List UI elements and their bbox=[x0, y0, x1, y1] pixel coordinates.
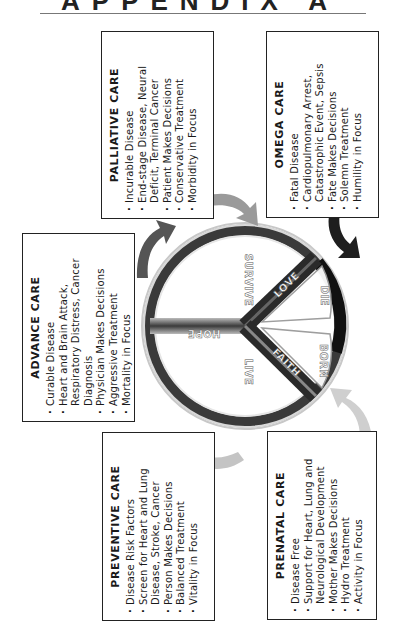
palliative-care-title: PALLIATIVE CARE bbox=[108, 38, 121, 212]
list-item: End-stage Disease, Neural Deficit, Termi… bbox=[137, 38, 162, 212]
list-item: Incurable Disease bbox=[124, 38, 137, 212]
advance-care-title: ADVANCE CARE bbox=[29, 240, 42, 415]
preventive-care-box: PREVENTIVE CARE Disease Risk Factors Scr… bbox=[102, 432, 215, 621]
list-item: Aggressive Treatment bbox=[108, 240, 121, 415]
label-survive: SURVIVE bbox=[243, 254, 254, 307]
list-item: Disease Risk Factors bbox=[125, 439, 138, 614]
list-item: Fatal Disease bbox=[289, 38, 302, 211]
advance-care-box: ADVANCE CARE Curable Disease Heart and B… bbox=[22, 233, 135, 422]
list-item: Curable Disease bbox=[45, 240, 58, 415]
label-die: DIE bbox=[319, 286, 330, 306]
list-item: Support for Heart, Lung and Neurological… bbox=[303, 438, 328, 613]
list-item: Mother Makes Decisions bbox=[328, 438, 341, 613]
list-item: Fate Makes Decisions bbox=[327, 38, 340, 211]
list-item: Screen for Heart and Lung Disease, Strok… bbox=[138, 439, 163, 614]
list-item: Conservative Treatment bbox=[174, 38, 187, 212]
peace-symbol: HOPE SURVIVE LIVE LOVE FAITH DIE BORN bbox=[142, 223, 348, 429]
list-item: Balanced Treatment bbox=[175, 439, 188, 614]
list-item: Solemn Treatment bbox=[339, 38, 352, 211]
advance-care-list: Curable Disease Heart and Brain Attack, … bbox=[45, 240, 133, 415]
palliative-care-box: PALLIATIVE CARE Incurable Disease End-st… bbox=[101, 31, 214, 219]
preventive-care-title: PREVENTIVE CARE bbox=[109, 439, 122, 614]
list-item: Disease Free bbox=[290, 438, 303, 613]
list-item: Patient Makes Decisions bbox=[162, 38, 175, 212]
preventive-care-list: Disease Risk Factors Screen for Heart an… bbox=[125, 439, 201, 614]
omega-care-list: Fatal Disease Cardiopulmonary Arrest, Ca… bbox=[289, 38, 365, 211]
list-item: Activity in Focus bbox=[353, 438, 366, 613]
prenatal-care-title: PRENATAL CARE bbox=[274, 438, 287, 613]
omega-care-title: OMEGA CARE bbox=[273, 38, 286, 211]
list-item: Hydro Treatment bbox=[340, 438, 353, 613]
list-item: Vitality in Focus bbox=[188, 439, 201, 614]
list-item: Humility in Focus bbox=[352, 38, 365, 211]
label-live: LIVE bbox=[243, 359, 254, 386]
list-item: Mortality in Focus bbox=[121, 240, 134, 415]
list-item: Physician Makes Decisions bbox=[95, 240, 108, 415]
omega-care-box: OMEGA CARE Fatal Disease Cardiopulmonary… bbox=[266, 31, 379, 218]
palliative-care-list: Incurable Disease End-stage Disease, Neu… bbox=[124, 38, 200, 212]
prenatal-care-box: PRENATAL CARE Disease Free Support for H… bbox=[267, 431, 377, 620]
list-item: Heart and Brain Attack, Respiratory Dist… bbox=[58, 240, 96, 415]
list-item: Morbidity in Focus bbox=[187, 38, 200, 212]
label-born: BORN bbox=[318, 344, 329, 378]
list-item: Cardiopulmonary Arrest, Catastrophic Eve… bbox=[302, 38, 327, 211]
prenatal-care-list: Disease Free Support for Heart, Lung and… bbox=[290, 438, 366, 613]
label-hope: HOPE bbox=[187, 328, 220, 339]
list-item: Person Makes Decisions bbox=[163, 439, 176, 614]
